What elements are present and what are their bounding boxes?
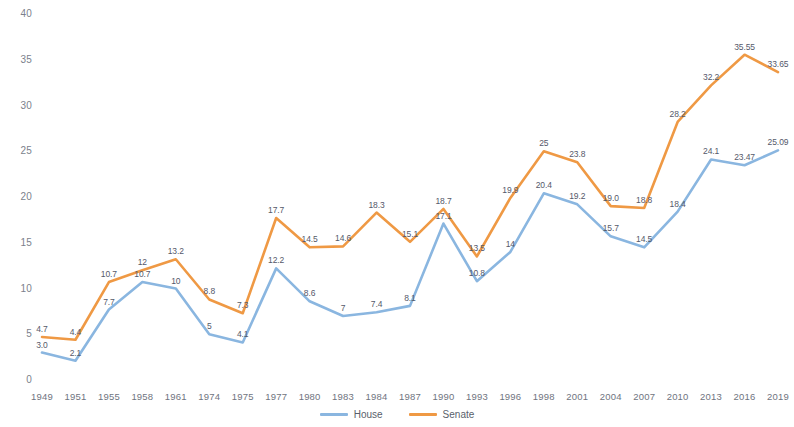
data-label: 4.7 xyxy=(36,324,48,334)
data-label: 8.8 xyxy=(204,286,216,296)
data-label: 33.65 xyxy=(768,59,789,69)
y-axis-tick-label: 10 xyxy=(6,283,32,294)
data-label: 19.9 xyxy=(502,185,518,195)
data-label: 28.2 xyxy=(670,109,686,119)
y-axis-tick-label: 15 xyxy=(6,237,32,248)
data-label: 15.1 xyxy=(402,229,418,239)
y-axis-tick-label: 20 xyxy=(6,191,32,202)
data-label: 8.1 xyxy=(404,293,416,303)
data-label: 14.5 xyxy=(302,234,318,244)
y-axis-tick-label: 30 xyxy=(6,100,32,111)
data-label: 18.7 xyxy=(435,196,451,206)
data-label: 14.5 xyxy=(636,234,652,244)
y-axis-tick-label: 35 xyxy=(6,54,32,65)
chart-legend: HouseSenate xyxy=(0,409,794,420)
data-label: 12.2 xyxy=(268,255,284,265)
data-label: 23.47 xyxy=(734,152,755,162)
data-label: 18.8 xyxy=(636,195,652,205)
y-axis-tick-label: 0 xyxy=(6,374,32,385)
data-label: 4.1 xyxy=(237,329,249,339)
legend-label: Senate xyxy=(443,409,475,420)
legend-item-house[interactable]: House xyxy=(320,409,383,420)
data-label: 17.7 xyxy=(268,205,284,215)
data-label: 18.4 xyxy=(670,199,686,209)
data-label: 14.6 xyxy=(335,233,351,243)
data-label: 15.7 xyxy=(603,223,619,233)
y-axis-tick-label: 40 xyxy=(6,8,32,19)
data-label: 20.4 xyxy=(536,180,552,190)
data-label: 10.8 xyxy=(469,268,485,278)
data-label: 5 xyxy=(207,321,212,331)
data-label: 7.4 xyxy=(371,299,383,309)
data-label: 13.5 xyxy=(469,243,485,253)
data-label: 35.55 xyxy=(734,42,755,52)
y-axis-tick-label: 25 xyxy=(6,145,32,156)
data-label: 10.7 xyxy=(134,269,150,279)
data-label: 32.2 xyxy=(703,72,719,82)
data-label: 23.8 xyxy=(569,149,585,159)
y-axis-tick-label: 5 xyxy=(6,328,32,339)
data-label: 2.1 xyxy=(70,348,82,358)
series-line-house xyxy=(42,150,778,360)
data-label: 12 xyxy=(138,257,147,267)
data-label: 19.2 xyxy=(569,191,585,201)
data-label: 8.6 xyxy=(304,288,316,298)
data-label: 10.7 xyxy=(101,269,117,279)
data-label: 17.1 xyxy=(435,211,451,221)
data-label: 19.0 xyxy=(603,193,619,203)
data-label: 7.3 xyxy=(237,300,249,310)
data-label: 3.0 xyxy=(36,340,48,350)
data-label: 25 xyxy=(539,138,548,148)
data-label: 13.2 xyxy=(168,246,184,256)
data-label: 7 xyxy=(341,303,346,313)
x-axis-tick-label: 2019 xyxy=(756,391,794,402)
data-label: 14 xyxy=(506,239,515,249)
data-label: 10 xyxy=(171,276,180,286)
data-label: 4.4 xyxy=(70,327,82,337)
legend-label: House xyxy=(354,409,383,420)
legend-swatch-house xyxy=(320,413,348,416)
line-chart: 0510152025303540 19491951195519581961197… xyxy=(0,0,794,427)
legend-item-senate[interactable]: Senate xyxy=(409,409,475,420)
data-label: 18.3 xyxy=(368,200,384,210)
legend-swatch-senate xyxy=(409,413,437,416)
chart-plot-area xyxy=(0,0,794,427)
data-label: 25.09 xyxy=(768,137,789,147)
data-label: 24.1 xyxy=(703,146,719,156)
data-label: 7.7 xyxy=(103,297,115,307)
